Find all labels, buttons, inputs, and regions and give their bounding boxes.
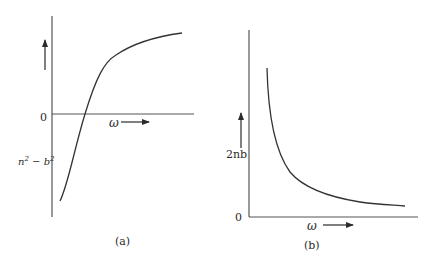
panel-a-curve — [60, 33, 182, 201]
panel-a-origin-label: 0 — [40, 111, 47, 124]
panel-b-curve — [267, 68, 405, 206]
panel-a-caption: (a) — [115, 235, 130, 248]
panel-a-y-axis-label: n2 − b2 — [18, 155, 55, 167]
panel-a-x-axis-label: ω — [109, 116, 119, 130]
panel-b-x-axis-label: ω — [307, 219, 317, 233]
figure: 0 ω n2 − b2 (a) 2nb 0 ω (b) — [0, 0, 432, 264]
panel-b-y-axis-label: 2nb — [226, 148, 247, 161]
panel-b: 2nb 0 ω (b) — [226, 30, 418, 252]
panel-b-origin-label: 0 — [235, 211, 242, 224]
panel-a: 0 ω n2 − b2 (a) — [18, 16, 194, 248]
panel-b-caption: (b) — [304, 239, 320, 252]
